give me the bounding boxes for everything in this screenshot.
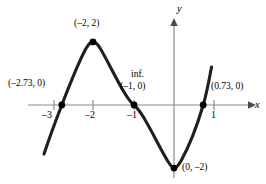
label-right-intercept: (0.73, 0) bbox=[211, 82, 243, 92]
label-inflection-point: (–1, 0) bbox=[120, 82, 145, 92]
tick-label-neg1: –1 bbox=[127, 110, 137, 120]
point-inflection bbox=[131, 102, 138, 109]
label-inflection-note: inf. bbox=[131, 70, 144, 80]
cubic-graph-plot bbox=[0, 0, 266, 184]
point-left-intercept bbox=[58, 102, 65, 109]
y-axis-label: y bbox=[177, 4, 182, 15]
tick-label-pos1: 1 bbox=[211, 110, 216, 120]
x-axis-label: x bbox=[255, 100, 260, 111]
point-minimum bbox=[171, 165, 178, 172]
label-minimum: (0, –2) bbox=[182, 163, 207, 173]
label-maximum: (–2, 2) bbox=[74, 19, 99, 29]
point-right-intercept bbox=[200, 102, 207, 109]
graph-figure: (–2.73, 0) (–2, 2) inf. (–1, 0) (0.73, 0… bbox=[0, 0, 266, 184]
point-maximum bbox=[90, 39, 97, 46]
tick-label-neg3: –3 bbox=[42, 110, 52, 120]
tick-label-neg2: –2 bbox=[85, 110, 95, 120]
label-left-intercept: (–2.73, 0) bbox=[8, 79, 45, 89]
y-axis-arrow bbox=[170, 18, 177, 26]
